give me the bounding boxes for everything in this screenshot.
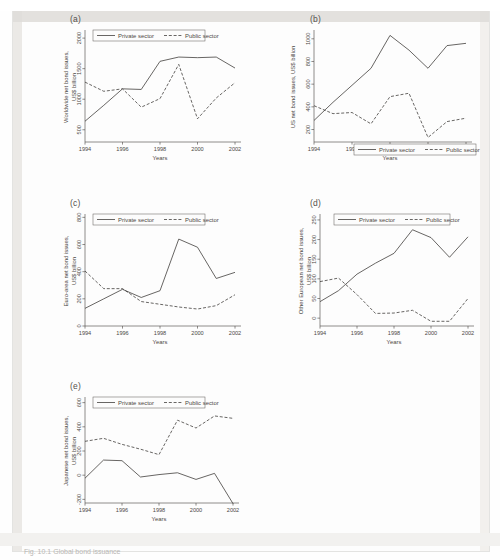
y-axis-title: Worldwide net bond issues, [63, 51, 69, 123]
x-axis-title: Years [153, 339, 168, 345]
y-tick-label: -200 [76, 494, 82, 505]
x-axis-title: Years [152, 516, 167, 522]
panel-b-plot: 2004006008001000US net bond issues, US$ … [290, 30, 480, 161]
x-tick-label: 2002 [229, 146, 241, 152]
x-tick-label: 1998 [153, 507, 165, 513]
legend-label-private: Private sector [118, 400, 154, 406]
y-axis-title: Other European net bond issues, [298, 227, 304, 314]
y-tick-label: 0 [311, 317, 317, 320]
y-tick-label: 400 [76, 267, 82, 276]
x-tick-label: 1996 [351, 330, 363, 336]
panel-e-chart: -2000200400600Japanese net bond issues,U… [30, 381, 245, 541]
legend-label-private: Private sector [118, 33, 154, 39]
x-axis-title: Years [387, 339, 402, 345]
panel-c-chart: 0200400600800Euro-area net bond issues,U… [30, 198, 245, 363]
legend-label-public: Public sector [185, 400, 219, 406]
y-tick-label: 100 [311, 274, 317, 283]
figure-caption: Fig. 10.1 Global bond issuance [24, 548, 121, 555]
y-axis-title: Japanese net bond issues, [63, 416, 69, 486]
x-tick-label: 1996 [116, 146, 128, 152]
y-tick-label: 800 [305, 57, 311, 66]
legend-label-public: Public sector [446, 147, 480, 153]
panel-e-plot: -2000200400600Japanese net bond issues,U… [63, 397, 239, 522]
x-tick-label: 2000 [191, 146, 203, 152]
y-tick-label: 1000 [76, 93, 82, 105]
x-tick-label: 2002 [227, 507, 239, 513]
y-tick-label: 200 [311, 235, 317, 244]
y-axis-title-line2: US$ billion [71, 73, 77, 101]
panel-c-letter: (c) [70, 198, 81, 208]
y-tick-label: 400 [305, 102, 311, 111]
y-tick-label: 2000 [76, 32, 82, 44]
y-tick-label: 600 [76, 398, 82, 407]
x-tick-label: 1998 [154, 330, 166, 336]
page-margin-top [0, 0, 500, 11]
x-tick-label: 1994 [308, 146, 320, 152]
series-public-sector [320, 278, 468, 321]
panel-d-chart: 050100150200250Other European net bond i… [262, 198, 477, 363]
legend-label-private: Private sector [118, 217, 154, 223]
x-tick-label: 1994 [314, 330, 326, 336]
y-tick-label: 1000 [305, 33, 311, 45]
series-private-sector [85, 239, 235, 308]
legend-label-public: Public sector [185, 33, 219, 39]
x-tick-label: 2000 [425, 330, 437, 336]
series-private-sector [85, 57, 235, 121]
series-private-sector [320, 230, 468, 302]
panel-b: (b) 2004006008001000US net bond issues, … [262, 14, 477, 179]
series-public-sector [85, 416, 233, 455]
x-tick-label: 1994 [79, 146, 91, 152]
y-axis-title-line2: US$ billion [306, 257, 312, 285]
y-tick-label: 600 [76, 240, 82, 249]
y-tick-label: 0 [76, 324, 82, 327]
y-tick-label: 1500 [76, 62, 82, 74]
y-tick-label: 150 [311, 255, 317, 264]
x-tick-label: 1998 [154, 146, 166, 152]
y-axis-title-line2: US$ billion [71, 437, 77, 465]
panel-d-letter: (d) [310, 198, 321, 208]
x-tick-label: 2000 [190, 507, 202, 513]
x-axis-title: Years [153, 155, 168, 161]
x-tick-label: 2000 [191, 330, 203, 336]
y-tick-label: 400 [76, 422, 82, 431]
panel-a-chart: 500100015002000Worldwide net bond issues… [30, 14, 245, 179]
panel-a: (a) 500100015002000Worldwide net bond is… [30, 14, 245, 179]
y-tick-label: 200 [76, 446, 82, 455]
x-axis-title: Years [383, 155, 398, 161]
panel-a-plot: 500100015002000Worldwide net bond issues… [63, 30, 241, 161]
y-axis-title: US net bond issues, US$ billion [290, 46, 296, 129]
page-edge-right [480, 11, 489, 551]
page-edge-left [13, 11, 22, 551]
panel-c: (c) 0200400600800Euro-area net bond issu… [30, 198, 245, 363]
legend-label-private: Private sector [379, 147, 415, 153]
x-tick-label: 1998 [388, 330, 400, 336]
panel-e-letter: (e) [70, 381, 81, 391]
x-tick-label: 2002 [229, 330, 241, 336]
y-tick-label: 200 [76, 294, 82, 303]
legend-label-private: Private sector [359, 217, 395, 223]
figure-page: (a) 500100015002000Worldwide net bond is… [0, 0, 500, 560]
y-axis-title-line2: US$ billion [71, 257, 77, 285]
x-tick-label: 1996 [116, 330, 128, 336]
y-tick-label: 200 [305, 125, 311, 134]
panel-d: (d) 050100150200250Other European net bo… [262, 198, 477, 363]
legend-label-public: Public sector [426, 217, 460, 223]
x-tick-label: 1994 [79, 330, 91, 336]
y-tick-label: 800 [76, 213, 82, 222]
y-axis-title: Euro-area net bond issues, [63, 235, 69, 306]
legend-label-public: Public sector [185, 217, 219, 223]
y-tick-label: 50 [311, 295, 317, 301]
panel-a-letter: (a) [70, 14, 81, 24]
panel-b-chart: 2004006008001000US net bond issues, US$ … [262, 14, 477, 179]
x-tick-label: 1994 [79, 507, 91, 513]
panel-d-plot: 050100150200250Other European net bond i… [298, 214, 474, 345]
series-public-sector [85, 64, 235, 118]
x-tick-label: 2002 [462, 330, 474, 336]
series-public-sector [314, 93, 466, 137]
series-private-sector [85, 460, 233, 504]
x-tick-label: 1996 [116, 507, 128, 513]
panel-c-plot: 0200400600800Euro-area net bond issues,U… [63, 213, 241, 345]
panel-b-letter: (b) [310, 14, 321, 24]
y-tick-label: 0 [76, 474, 82, 477]
series-private-sector [314, 35, 466, 120]
